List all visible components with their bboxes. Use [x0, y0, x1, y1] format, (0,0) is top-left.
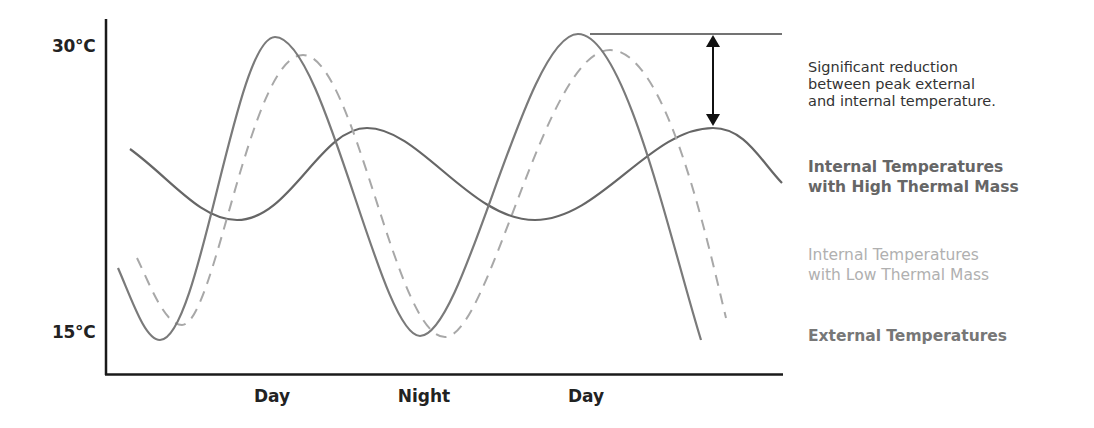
x-label-day-1: Day [254, 386, 290, 406]
note-line: and internal temperature. [808, 93, 996, 110]
arrow-up-icon [706, 35, 720, 47]
series-high-thermal-mass [130, 128, 782, 220]
legend-high-thermal-mass: Internal Temperatures with High Thermal … [808, 157, 1019, 197]
note-line: between peak external [808, 76, 996, 93]
y-label-30c: 30°C [52, 36, 95, 56]
legend-label: Internal Temperatures [808, 245, 989, 265]
series-low-thermal-mass [137, 50, 726, 337]
note-line: Significant reduction [808, 59, 996, 76]
legend-label: with High Thermal Mass [808, 177, 1019, 197]
y-label-15c: 15°C [52, 322, 95, 342]
legend-label: External Temperatures [808, 326, 1007, 346]
x-label-night: Night [398, 386, 450, 406]
legend-low-thermal-mass: Internal Temperatures with Low Thermal M… [808, 245, 989, 285]
x-label-day-2: Day [568, 386, 604, 406]
legend-external: External Temperatures [808, 326, 1007, 346]
arrow-down-icon [706, 114, 720, 126]
legend-label: with Low Thermal Mass [808, 265, 989, 285]
annotation-note: Significant reduction between peak exter… [808, 59, 996, 110]
legend-label: Internal Temperatures [808, 157, 1019, 177]
